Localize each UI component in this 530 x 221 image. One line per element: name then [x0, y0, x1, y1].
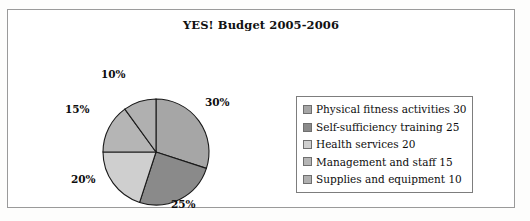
legend-item-health-services: Health services 20: [303, 136, 467, 153]
pie-value-label-self-sufficiency-training: 25%: [171, 198, 196, 210]
pie-value-label-supplies-and-equipment: 10%: [101, 68, 126, 80]
chart-title: YES! Budget 2005-2006: [8, 18, 514, 32]
pie-value-label-management-and-staff: 15%: [65, 103, 90, 115]
legend-item-management-and-staff: Management and staff 15: [303, 153, 467, 170]
legend-item-supplies-and-equipment: Supplies and equipment 10: [303, 171, 467, 188]
legend-item-self-sufficiency-training: Self-sufficiency training 25: [303, 118, 467, 135]
legend-swatch-icon: [303, 157, 312, 166]
legend-swatch-icon: [303, 140, 312, 149]
chart-legend: Physical fitness activities 30 Self-suff…: [296, 96, 473, 193]
legend-item-physical-fitness-activities: Physical fitness activities 30: [303, 101, 467, 118]
legend-label: Self-sufficiency training 25: [316, 122, 459, 133]
legend-label: Physical fitness activities 30: [316, 104, 467, 115]
legend-label: Health services 20: [316, 139, 415, 150]
legend-swatch-icon: [303, 123, 312, 132]
chart-figure: YES! Budget 2005-2006 10% 30% 15% 20% 25…: [0, 0, 530, 221]
legend-label: Management and staff 15: [316, 157, 453, 168]
pie-value-label-health-services: 20%: [71, 173, 96, 185]
legend-label: Supplies and equipment 10: [316, 174, 462, 185]
legend-swatch-icon: [303, 105, 312, 114]
pie-value-label-physical-fitness-activities: 30%: [205, 96, 230, 108]
chart-frame: YES! Budget 2005-2006 10% 30% 15% 20% 25…: [7, 9, 515, 208]
legend-swatch-icon: [303, 175, 312, 184]
